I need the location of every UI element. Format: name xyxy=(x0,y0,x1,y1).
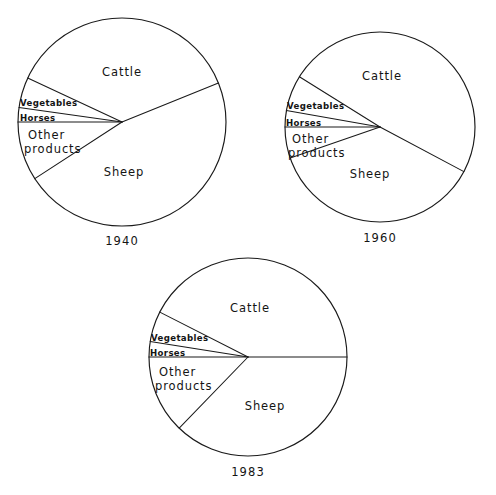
slice-label-other-line2-1960: products xyxy=(288,146,345,160)
slice-label-horses-1940: Horses xyxy=(20,113,56,123)
slice-label-horses-1983: Horses xyxy=(150,348,186,358)
slice-label-other-line1-1960: Other xyxy=(292,132,329,146)
slice-label-horses-1960: Horses xyxy=(286,118,322,128)
slice-label-cattle-1960: Cattle xyxy=(362,69,402,83)
year-caption-1983: 1983 xyxy=(231,465,265,479)
slice-label-sheep-1960: Sheep xyxy=(350,167,391,181)
year-caption-1960: 1960 xyxy=(363,231,397,245)
slice-label-sheep-1940: Sheep xyxy=(104,165,145,179)
year-caption-1940: 1940 xyxy=(105,234,139,248)
pie-chart-figure: Cattle Vegetables Horses Other products … xyxy=(0,0,496,495)
slice-label-cattle-1940: Cattle xyxy=(102,65,142,79)
pie-chart-1960: Cattle Vegetables Horses Other products … xyxy=(285,32,475,245)
slice-label-other-line1-1983: Other xyxy=(159,365,196,379)
pie-chart-1983: Cattle Vegetables Horses Other products … xyxy=(149,258,347,479)
slice-label-vegetables-1940: Vegetables xyxy=(20,98,77,108)
pie-chart-1940: Cattle Vegetables Horses Other products … xyxy=(18,18,226,248)
slice-label-other-line1-1940: Other xyxy=(28,128,65,142)
slice-label-vegetables-1960: Vegetables xyxy=(287,101,344,111)
slice-label-other-line2-1940: products xyxy=(24,142,81,156)
slice-label-sheep-1983: Sheep xyxy=(245,399,286,413)
slice-label-cattle-1983: Cattle xyxy=(230,301,270,315)
slice-label-vegetables-1983: Vegetables xyxy=(151,333,208,343)
slice-label-other-line2-1983: products xyxy=(155,379,212,393)
pie-charts-svg: Cattle Vegetables Horses Other products … xyxy=(0,0,496,495)
